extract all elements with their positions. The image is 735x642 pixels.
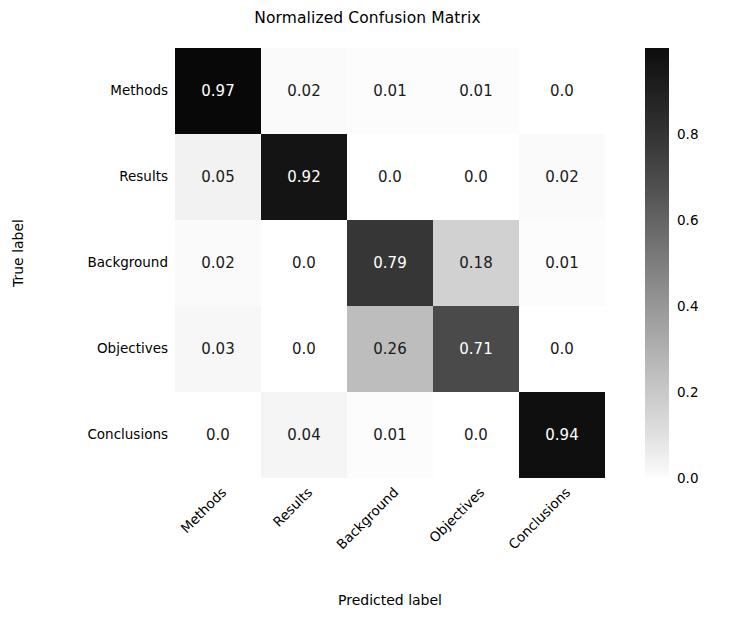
colorbar-gradient <box>645 48 669 478</box>
heatmap-cell-value: 0.01 <box>347 392 433 478</box>
heatmap-cell-value: 0.94 <box>519 392 605 478</box>
heatmap-cell: 0.0 <box>519 306 605 392</box>
heatmap-cell-value: 0.0 <box>433 392 519 478</box>
y-tick-label: Results <box>8 168 168 184</box>
colorbar-tick-labels: 0.80.60.40.20.0 <box>669 48 733 478</box>
heatmap-cell-value: 0.26 <box>347 306 433 392</box>
heatmap-cell: 0.01 <box>433 48 519 134</box>
heatmap-cell-value: 0.18 <box>433 220 519 306</box>
heatmap-cell: 0.01 <box>347 48 433 134</box>
heatmap-cell: 0.97 <box>175 48 261 134</box>
heatmap-cell: 0.79 <box>347 220 433 306</box>
heatmap-cell: 0.02 <box>175 220 261 306</box>
heatmap-cell-value: 0.03 <box>175 306 261 392</box>
y-tick-label: Background <box>8 254 168 270</box>
heatmap-cell-value: 0.0 <box>519 306 605 392</box>
heatmap-cell: 0.0 <box>261 306 347 392</box>
heatmap-cell: 0.05 <box>175 134 261 220</box>
heatmap-cell-value: 0.0 <box>175 392 261 478</box>
heatmap-cell-value: 0.0 <box>261 220 347 306</box>
heatmap-cell: 0.01 <box>519 220 605 306</box>
heatmap-cell-value: 0.79 <box>347 220 433 306</box>
heatmap-cell-value: 0.01 <box>519 220 605 306</box>
x-axis-label: Predicted label <box>175 592 605 608</box>
heatmap-cell-value: 0.0 <box>433 134 519 220</box>
heatmap-cell: 0.02 <box>261 48 347 134</box>
y-tick-label: Objectives <box>8 340 168 356</box>
heatmap-cell: 0.92 <box>261 134 347 220</box>
heatmap-cell: 0.0 <box>175 392 261 478</box>
y-tick-label: Methods <box>8 82 168 98</box>
heatmap-cell: 0.02 <box>519 134 605 220</box>
heatmap-cell-value: 0.97 <box>175 48 261 134</box>
heatmap-cell-value: 0.92 <box>261 134 347 220</box>
y-tick-label: Conclusions <box>8 426 168 442</box>
heatmap-cell: 0.0 <box>519 48 605 134</box>
heatmap-cell-value: 0.02 <box>261 48 347 134</box>
colorbar-tick-label: 0.0 <box>677 470 698 486</box>
heatmap-cell: 0.0 <box>433 134 519 220</box>
heatmap-cell: 0.03 <box>175 306 261 392</box>
heatmap-cell: 0.0 <box>347 134 433 220</box>
heatmap-grid: 0.970.020.010.010.00.050.920.00.00.020.0… <box>175 48 605 478</box>
heatmap-cell: 0.0 <box>261 220 347 306</box>
heatmap-cell-value: 0.01 <box>433 48 519 134</box>
heatmap-cell: 0.94 <box>519 392 605 478</box>
chart-title: Normalized Confusion Matrix <box>0 9 735 27</box>
confusion-matrix-figure: Normalized Confusion Matrix True label M… <box>0 0 735 642</box>
heatmap-cell: 0.04 <box>261 392 347 478</box>
heatmap-cell-value: 0.02 <box>519 134 605 220</box>
colorbar-tick-label: 0.2 <box>677 384 698 400</box>
y-tick-labels: MethodsResultsBackgroundObjectivesConclu… <box>5 48 168 478</box>
heatmap-cell-value: 0.0 <box>261 306 347 392</box>
colorbar-tick-label: 0.4 <box>677 298 698 314</box>
heatmap-cell-value: 0.71 <box>433 306 519 392</box>
colorbar-tick-label: 0.8 <box>677 126 698 142</box>
heatmap-cell: 0.71 <box>433 306 519 392</box>
colorbar-tick-label: 0.6 <box>677 212 698 228</box>
x-tick-labels: MethodsResultsBackgroundObjectivesConclu… <box>175 478 605 578</box>
heatmap-cell-value: 0.02 <box>175 220 261 306</box>
heatmap-cell-value: 0.0 <box>519 48 605 134</box>
heatmap-cell: 0.01 <box>347 392 433 478</box>
heatmap-cell: 0.0 <box>433 392 519 478</box>
heatmap-cell-value: 0.04 <box>261 392 347 478</box>
heatmap-cell-value: 0.0 <box>347 134 433 220</box>
heatmap-cell: 0.18 <box>433 220 519 306</box>
heatmap-cell-value: 0.05 <box>175 134 261 220</box>
heatmap-cell: 0.26 <box>347 306 433 392</box>
heatmap-cell-value: 0.01 <box>347 48 433 134</box>
